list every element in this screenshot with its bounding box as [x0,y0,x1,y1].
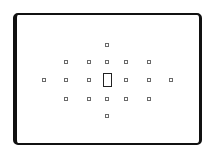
af-center-point [103,73,112,87]
af-point [64,97,68,101]
af-point [124,97,128,101]
af-point [87,97,91,101]
af-point [147,97,151,101]
af-point [105,97,109,101]
af-point [105,43,109,47]
af-point [124,78,128,82]
af-point [124,60,128,64]
af-point [64,78,68,82]
af-point [105,114,109,118]
af-point [147,60,151,64]
af-point [105,60,109,64]
af-point [64,60,68,64]
af-point [169,78,173,82]
af-point [42,78,46,82]
af-point [87,78,91,82]
af-point [147,78,151,82]
af-point [87,60,91,64]
